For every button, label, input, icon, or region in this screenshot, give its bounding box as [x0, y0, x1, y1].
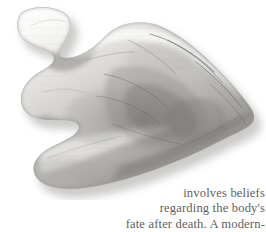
body-text-line-1: involves beliefs — [65, 186, 265, 201]
body-text-block: involves beliefs regarding the body's fa… — [65, 186, 265, 232]
body-text-line-3: fate after death. A modern- — [65, 217, 265, 232]
body-text-line-2: regarding the body's — [65, 201, 265, 216]
figure-container — [0, 0, 266, 200]
page-canvas: involves beliefs regarding the body's fa… — [0, 0, 266, 232]
stone-projectile-point-icon — [0, 0, 266, 200]
artifact-body — [0, 0, 266, 200]
